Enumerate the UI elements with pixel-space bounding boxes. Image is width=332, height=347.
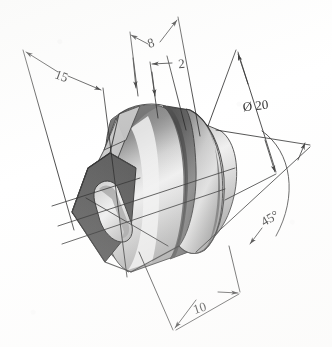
- dim-diameter-20-label: Ø 20: [242, 97, 269, 115]
- dim-8-leader-right: [160, 20, 177, 42]
- dim-2-tick: [152, 72, 155, 96]
- dim-8-label: 8: [145, 35, 156, 51]
- part-body: [72, 104, 237, 272]
- dim-15-leader-left: [26, 52, 58, 72]
- dim-45-arrow-b: [250, 228, 262, 244]
- dim-2-label: 2: [178, 56, 186, 72]
- dim-d20-arrow-top: [238, 54, 248, 84]
- dim-d20-ext-upper: [208, 50, 236, 126]
- isometric-drawing-svg: 15 8 2 Ø 20 10 45°: [0, 0, 332, 347]
- dim-45-label: 45°: [258, 207, 281, 229]
- dim-45-arrow-a: [298, 143, 305, 160]
- dim-15-leader-right: [68, 76, 101, 90]
- dim-10-label: 10: [191, 299, 208, 317]
- technical-drawing-canvas: 15 8 2 Ø 20 10 45°: [0, 0, 332, 347]
- dim-10-leader-right: [218, 292, 238, 293]
- dim-d20-arrow-bottom: [265, 140, 275, 172]
- dim-15-label: 15: [53, 67, 70, 86]
- dim-10-ext-left: [139, 252, 173, 330]
- dim-10-ext-right: [229, 246, 240, 292]
